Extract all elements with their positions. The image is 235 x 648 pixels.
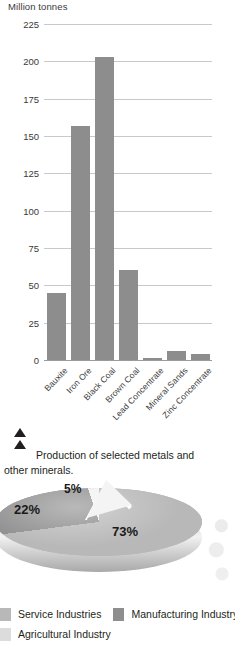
bar-iron-ore	[71, 126, 90, 360]
bar-chart-figure: Million tonnes 0255075100125150175200225…	[0, 0, 235, 425]
decorative-edge-artifact	[201, 512, 235, 598]
y-axis-title: Million tonnes	[8, 1, 68, 12]
y-tick-label-125: 125	[23, 168, 39, 179]
y-tick-label-75: 75	[28, 243, 39, 254]
pie-label-service: 73%	[112, 524, 138, 539]
bar-mineral-sands	[167, 351, 186, 360]
legend-swatch-manufacturing-industry	[113, 608, 124, 621]
y-tick-label-175: 175	[23, 93, 39, 104]
legend-item-service-industries: Service Industries	[0, 608, 101, 621]
legend-label-service-industries: Service Industries	[18, 608, 101, 620]
gridline-100: 100	[44, 211, 212, 212]
gridline-175: 175	[44, 99, 212, 100]
y-tick-label-200: 200	[23, 56, 39, 67]
gridline-200: 200	[44, 61, 212, 62]
gridline-0: 0	[44, 360, 212, 361]
legend-label-agricultural-industry: Agricultural Industry	[18, 628, 111, 640]
bar-brown-coal	[119, 270, 138, 360]
bar-bauxite	[47, 293, 66, 360]
y-tick-label-100: 100	[23, 205, 39, 216]
pie-label-manufacturing: 22%	[14, 502, 40, 517]
y-tick-label-25: 25	[28, 317, 39, 328]
pie-chart-graphic: 73% 22% 5%	[0, 480, 206, 592]
y-tick-label-225: 225	[23, 19, 39, 30]
legend-swatch-agricultural-industry	[0, 628, 11, 641]
gridline-75: 75	[44, 248, 212, 249]
gridline-150: 150	[44, 136, 212, 137]
bar-chart-plot-area: 0255075100125150175200225	[44, 24, 212, 360]
y-tick-label-0: 0	[34, 355, 39, 366]
legend-label-manufacturing-industry: Manufacturing Industry	[131, 608, 235, 620]
legend-swatch-service-industries	[0, 608, 11, 621]
pie-chart-figure: 73% 22% 5%	[0, 472, 235, 592]
pie-chart-legend: Service Industries Manufacturing Industr…	[0, 604, 235, 644]
y-tick-label-150: 150	[23, 131, 39, 142]
gridline-225: 225	[44, 24, 212, 25]
gridline-125: 125	[44, 173, 212, 174]
legend-row-1: Service Industries Manufacturing Industr…	[0, 604, 235, 624]
bar-zinc-concentrate	[191, 354, 210, 360]
legend-item-agricultural-industry: Agricultural Industry	[0, 628, 111, 641]
y-tick-label-50: 50	[28, 280, 39, 291]
legend-row-2: Agricultural Industry	[0, 624, 235, 644]
bar-black-coal	[95, 57, 114, 360]
pie-label-agricultural: 5%	[64, 482, 81, 496]
legend-item-manufacturing-industry: Manufacturing Industry	[113, 608, 235, 621]
bar-lead-concentrate	[143, 358, 162, 360]
